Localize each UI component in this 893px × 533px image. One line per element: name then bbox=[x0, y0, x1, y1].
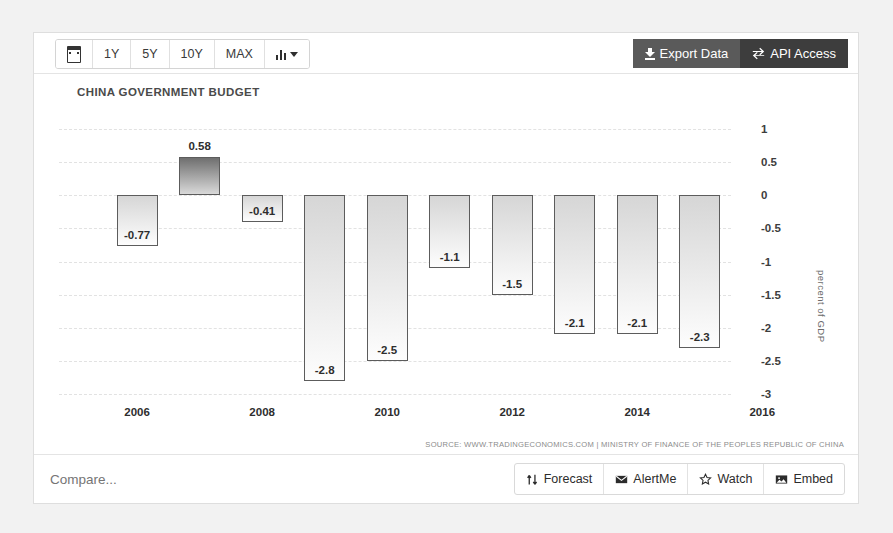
watch-button[interactable]: Watch bbox=[688, 464, 764, 494]
star-icon bbox=[699, 473, 712, 486]
alertme-button[interactable]: AlertMe bbox=[604, 464, 688, 494]
bar-value-label: -0.41 bbox=[249, 205, 275, 217]
bar-value-label: -1.5 bbox=[502, 278, 522, 290]
y-axis-tick: 0 bbox=[761, 189, 767, 201]
export-data-button[interactable]: Export Data bbox=[633, 39, 741, 68]
chart-bar[interactable] bbox=[617, 195, 658, 334]
range-label-10y: 10Y bbox=[181, 40, 203, 68]
x-axis-tick: 2014 bbox=[624, 406, 650, 418]
y-axis-tick: -2 bbox=[761, 322, 771, 334]
image-icon bbox=[775, 473, 788, 486]
chart-bar[interactable] bbox=[367, 195, 408, 361]
chart-bar[interactable] bbox=[179, 157, 220, 195]
alertme-label: AlertMe bbox=[633, 472, 676, 486]
chart-bar[interactable] bbox=[304, 195, 345, 381]
footer-bar: Forecast AlertMe Watch bbox=[34, 454, 858, 503]
forecast-button[interactable]: Forecast bbox=[515, 464, 605, 494]
exchange-icon bbox=[752, 47, 765, 60]
bar-value-label: -2.8 bbox=[315, 364, 335, 376]
bar-chart-icon bbox=[276, 49, 287, 60]
y-axis-tick: 1 bbox=[761, 123, 767, 135]
footer-button-group: Forecast AlertMe Watch bbox=[514, 463, 845, 495]
range-button-5y[interactable]: 5Y bbox=[131, 40, 169, 68]
range-button-group: 1Y 5Y 10Y MAX bbox=[55, 39, 310, 69]
bar-value-label: -2.1 bbox=[627, 317, 647, 329]
x-axis-tick: 2006 bbox=[124, 406, 150, 418]
bar-value-label: -2.3 bbox=[690, 331, 710, 343]
chart-source: SOURCE: WWW.TRADINGECONOMICS.COM | MINIS… bbox=[34, 440, 844, 449]
export-data-label: Export Data bbox=[660, 46, 729, 61]
chart-widget: 1Y 5Y 10Y MAX Export Data bbox=[33, 32, 859, 504]
y-axis-tick: -0.5 bbox=[761, 222, 781, 234]
embed-button[interactable]: Embed bbox=[764, 464, 844, 494]
chart-title: CHINA GOVERNMENT BUDGET bbox=[77, 86, 260, 98]
chart-bar[interactable] bbox=[679, 195, 720, 347]
embed-label: Embed bbox=[793, 472, 833, 486]
x-axis-tick: 2010 bbox=[374, 406, 400, 418]
range-label-1y: 1Y bbox=[104, 40, 119, 68]
toolbar: 1Y 5Y 10Y MAX Export Data bbox=[34, 33, 858, 74]
range-label-5y: 5Y bbox=[142, 40, 157, 68]
grid-line bbox=[59, 129, 731, 130]
envelope-icon bbox=[615, 473, 628, 486]
chart-type-dropdown[interactable] bbox=[265, 40, 310, 68]
chart-bar[interactable] bbox=[554, 195, 595, 334]
api-access-label: API Access bbox=[770, 46, 836, 61]
y-axis-tick: -1 bbox=[761, 256, 771, 268]
compare-input[interactable] bbox=[48, 464, 442, 495]
x-axis-tick: 2008 bbox=[249, 406, 275, 418]
grid-line bbox=[59, 394, 731, 395]
y-axis-tick: -3 bbox=[761, 388, 771, 400]
y-axis-label: percent of GDP bbox=[816, 270, 827, 342]
chart-area: CHINA GOVERNMENT BUDGET 10.50-0.5-1-1.5-… bbox=[34, 74, 858, 455]
y-axis-tick: -1.5 bbox=[761, 289, 781, 301]
watch-label: Watch bbox=[717, 472, 752, 486]
plot-canvas: 10.50-0.5-1-1.5-2-2.5-3-0.770.58-0.41-2.… bbox=[59, 129, 731, 394]
calendar-button[interactable] bbox=[56, 40, 93, 68]
forecast-arrows-icon bbox=[526, 473, 539, 486]
range-button-1y[interactable]: 1Y bbox=[93, 40, 131, 68]
bar-value-label: 0.58 bbox=[188, 140, 210, 152]
x-axis-tick: 2016 bbox=[749, 406, 775, 418]
bar-value-label: -2.1 bbox=[565, 317, 585, 329]
y-axis-tick: 0.5 bbox=[761, 156, 777, 168]
bar-value-label: -2.5 bbox=[377, 344, 397, 356]
download-icon bbox=[645, 48, 655, 59]
x-axis-tick: 2012 bbox=[499, 406, 525, 418]
api-access-button[interactable]: API Access bbox=[740, 39, 848, 68]
range-button-10y[interactable]: 10Y bbox=[170, 40, 215, 68]
range-button-max[interactable]: MAX bbox=[215, 40, 265, 68]
calendar-icon bbox=[67, 46, 81, 63]
range-label-max: MAX bbox=[226, 40, 253, 68]
grid-line bbox=[59, 162, 731, 163]
bar-value-label: -1.1 bbox=[440, 251, 460, 263]
forecast-label: Forecast bbox=[544, 472, 593, 486]
bar-value-label: -0.77 bbox=[124, 229, 150, 241]
chevron-down-icon bbox=[290, 52, 298, 57]
grid-line bbox=[59, 361, 731, 362]
y-axis-tick: -2.5 bbox=[761, 355, 781, 367]
toolbar-right-actions: Export Data API Access bbox=[633, 39, 848, 68]
